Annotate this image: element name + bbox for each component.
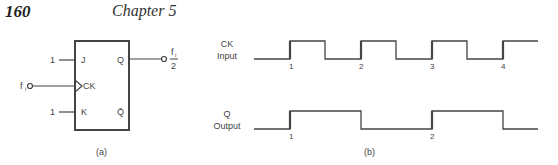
j-value: 1 <box>50 55 55 65</box>
ck-edge-label: 4 <box>501 62 506 71</box>
q-edge-label: 1 <box>289 132 294 141</box>
clock-input-subscript: i <box>25 86 26 92</box>
output-numerator: f <box>171 47 174 57</box>
caption-b: (b) <box>364 147 375 157</box>
flipflop-labels: 1 J CK 1 K Q Q̄ f i f i 2 (a) <box>20 47 176 157</box>
ck-label-line1: CK <box>221 39 234 49</box>
q-edge-label: 2 <box>430 132 435 141</box>
ck-edge-label: 3 <box>430 62 435 71</box>
pin-q-bar: Q̄ <box>117 107 124 117</box>
caption-a: (a) <box>96 147 107 157</box>
ck-edge-label: 1 <box>289 62 294 71</box>
pin-ck: CK <box>83 81 96 91</box>
clock-input-terminal <box>28 84 33 89</box>
q-output-terminal <box>162 57 167 62</box>
ck-edge-label: 2 <box>359 62 364 71</box>
pin-j: J <box>81 55 86 65</box>
output-numerator-subscript: i <box>175 52 176 58</box>
timing-labels: CK Input Q Output 1 2 3 4 1 2 (b) <box>213 39 506 157</box>
q-label-line1: Q <box>223 109 230 119</box>
output-denominator: 2 <box>171 61 176 71</box>
clock-input-label: f <box>20 81 23 91</box>
pin-q: Q <box>117 55 124 65</box>
ck-label-line2: Input <box>217 51 238 61</box>
timing-diagram <box>254 41 538 129</box>
pin-k: K <box>81 107 87 117</box>
q-label-line2: Output <box>213 121 241 131</box>
ck-waveform <box>254 41 538 59</box>
figure-canvas: 1 J CK 1 K Q Q̄ f i f i 2 (a) CK Input <box>0 0 558 165</box>
q-waveform <box>254 111 538 129</box>
clock-triangle-icon <box>75 80 82 92</box>
k-value: 1 <box>50 107 55 117</box>
